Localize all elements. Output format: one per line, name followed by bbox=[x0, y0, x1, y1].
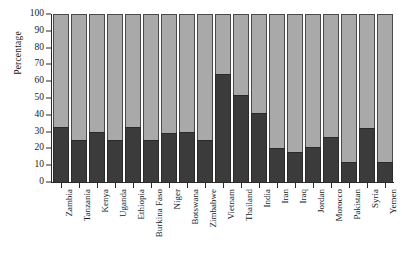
x-tick-label-slot: Niger bbox=[160, 189, 178, 273]
x-tick-mark bbox=[133, 183, 134, 188]
bar-group bbox=[323, 14, 340, 182]
bar-group bbox=[341, 14, 358, 182]
x-tick-mark-slot bbox=[196, 183, 214, 188]
x-tick-label-slot: Pakistan bbox=[340, 189, 358, 273]
bar-group bbox=[305, 14, 322, 182]
x-tick-mark-slot bbox=[214, 183, 232, 188]
y-tick-label: 40 bbox=[18, 110, 44, 120]
bar-group bbox=[53, 14, 70, 182]
bar-segment-lower bbox=[287, 152, 304, 182]
x-tick-label-slot: Uganda bbox=[106, 189, 124, 273]
x-tick-mark-slot bbox=[106, 183, 124, 188]
bar-segment-lower bbox=[179, 132, 196, 182]
x-axis-tick-labels: ZambiaTanzaniaKenyaUgandaEthiopiaBurkina… bbox=[52, 189, 394, 273]
x-tick-mark bbox=[205, 183, 206, 188]
x-tick-mark-slot bbox=[250, 183, 268, 188]
bar-segment-upper bbox=[179, 14, 196, 132]
x-tick-mark-slot bbox=[160, 183, 178, 188]
bar-segment-upper bbox=[305, 14, 322, 147]
bar-segment-upper bbox=[125, 14, 142, 127]
x-tick-label-slot: Tanzania bbox=[70, 189, 88, 273]
bar-group bbox=[251, 14, 268, 182]
bar-segment-upper bbox=[89, 14, 106, 132]
x-tick-mark bbox=[331, 183, 332, 188]
bar-segment-upper bbox=[269, 14, 286, 148]
bar-segment-lower bbox=[71, 140, 88, 182]
bar-group bbox=[179, 14, 196, 182]
x-tick-mark bbox=[223, 183, 224, 188]
x-tick-label-slot: Syria bbox=[358, 189, 376, 273]
x-tick-label-slot: Ethiopia bbox=[124, 189, 142, 273]
bar-group bbox=[215, 14, 232, 182]
x-tick-mark bbox=[367, 183, 368, 188]
bar-segment-lower bbox=[107, 140, 124, 182]
x-tick-label-slot: Thailand bbox=[232, 189, 250, 273]
x-tick-mark-slot bbox=[232, 183, 250, 188]
bar-segment-upper bbox=[215, 14, 232, 74]
x-tick-label-slot: India bbox=[250, 189, 268, 273]
x-axis-tick-marks bbox=[52, 183, 394, 188]
x-tick-mark-slot bbox=[268, 183, 286, 188]
bar-segment-upper bbox=[71, 14, 88, 140]
bar-segment-lower bbox=[125, 127, 142, 182]
x-tick-mark-slot bbox=[70, 183, 88, 188]
bar-group bbox=[197, 14, 214, 182]
bar-segment-lower bbox=[341, 162, 358, 182]
x-tick-label-slot: Iran bbox=[268, 189, 286, 273]
bar-group bbox=[377, 14, 394, 182]
x-tick-mark-slot bbox=[88, 183, 106, 188]
x-tick-mark-slot bbox=[124, 183, 142, 188]
x-tick-mark bbox=[79, 183, 80, 188]
bar-group bbox=[161, 14, 178, 182]
x-tick-mark-slot bbox=[178, 183, 196, 188]
bar-segment-lower bbox=[323, 137, 340, 182]
bar-segment-lower bbox=[215, 74, 232, 182]
bar-segment-lower bbox=[161, 133, 178, 182]
y-tick-label: 10 bbox=[18, 160, 44, 170]
bar-group bbox=[71, 14, 88, 182]
y-axis-tick-labels: 0102030405060708090100 bbox=[18, 14, 44, 182]
bar-segment-lower bbox=[197, 140, 214, 182]
bar-segment-upper bbox=[233, 14, 250, 95]
bar-group bbox=[269, 14, 286, 182]
y-tick-label: 20 bbox=[18, 144, 44, 154]
bar-segment-lower bbox=[359, 128, 376, 182]
bar-segment-lower bbox=[269, 148, 286, 182]
x-tick-label-slot: Iraq bbox=[286, 189, 304, 273]
y-tick-label: 90 bbox=[18, 26, 44, 36]
x-tick-label-slot: Zimbabwe bbox=[196, 189, 214, 273]
bar-segment-upper bbox=[161, 14, 178, 133]
bar-group bbox=[125, 14, 142, 182]
bar-group bbox=[89, 14, 106, 182]
x-tick-mark bbox=[61, 183, 62, 188]
bar-group bbox=[107, 14, 124, 182]
x-tick-mark bbox=[187, 183, 188, 188]
y-tick-label: 60 bbox=[18, 76, 44, 86]
x-tick-mark bbox=[169, 183, 170, 188]
x-tick-label-slot: Zambia bbox=[52, 189, 70, 273]
x-tick-mark bbox=[313, 183, 314, 188]
bar-segment-upper bbox=[53, 14, 70, 127]
x-tick-label-slot: Botswana bbox=[178, 189, 196, 273]
x-tick-mark bbox=[115, 183, 116, 188]
bar-segment-upper bbox=[287, 14, 304, 152]
x-tick-label-slot: Burkina Faso bbox=[142, 189, 160, 273]
x-tick-mark bbox=[241, 183, 242, 188]
bar-segment-upper bbox=[359, 14, 376, 128]
bar-segment-upper bbox=[341, 14, 358, 162]
y-tick-label: 70 bbox=[18, 60, 44, 70]
bar-segment-lower bbox=[305, 147, 322, 182]
x-tick-mark-slot bbox=[358, 183, 376, 188]
bar-segment-lower bbox=[251, 113, 268, 182]
x-tick-mark-slot bbox=[286, 183, 304, 188]
x-tick-mark-slot bbox=[304, 183, 322, 188]
bar-group bbox=[359, 14, 376, 182]
stacked-bar-chart: Percentage 0102030405060708090100 Zambia… bbox=[0, 0, 402, 276]
x-tick-label-slot: Jordan bbox=[304, 189, 322, 273]
bar-segment-lower bbox=[377, 162, 394, 182]
y-tick-label: 30 bbox=[18, 127, 44, 137]
bar-segment-lower bbox=[233, 95, 250, 182]
x-tick-mark bbox=[151, 183, 152, 188]
x-tick-mark-slot bbox=[52, 183, 70, 188]
bar-segment-lower bbox=[89, 132, 106, 182]
